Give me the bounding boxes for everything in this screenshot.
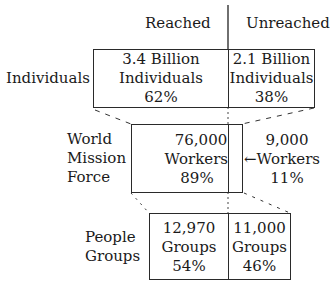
unit: Individuals bbox=[94, 69, 228, 88]
workers-unreached-cell: 9,000 ←Workers 11% bbox=[244, 131, 320, 188]
percent: 11% bbox=[244, 169, 320, 188]
label-line: Groups bbox=[85, 247, 140, 266]
workers-divider bbox=[228, 125, 229, 192]
value: 11,000 bbox=[229, 219, 290, 238]
unit: Groups bbox=[229, 238, 290, 257]
percent: 46% bbox=[229, 257, 290, 276]
header-unreached: Unreached bbox=[246, 14, 330, 32]
percent: 54% bbox=[150, 257, 228, 276]
percent: 62% bbox=[94, 88, 228, 107]
value: 3.4 Billion bbox=[94, 50, 228, 69]
individuals-reached-cell: 3.4 Billion Individuals 62% bbox=[94, 50, 228, 107]
label-line: Force bbox=[67, 168, 126, 187]
unit: Individuals bbox=[229, 69, 314, 88]
value: 2.1 Billion bbox=[229, 50, 314, 69]
workers-reached-cell: 76,000 Workers 89% bbox=[160, 131, 228, 188]
value: 9,000 bbox=[244, 131, 320, 150]
groups-reached-cell: 12,970 Groups 54% bbox=[150, 219, 228, 276]
value: 76,000 bbox=[160, 131, 228, 150]
value: 12,970 bbox=[150, 219, 228, 238]
percent: 38% bbox=[229, 88, 314, 107]
individuals-unreached-cell: 2.1 Billion Individuals 38% bbox=[229, 50, 314, 107]
groups-unreached-cell: 11,000 Groups 46% bbox=[229, 219, 290, 276]
row-label-individuals: Individuals bbox=[6, 69, 90, 88]
label-line: Mission bbox=[67, 149, 126, 168]
percent: 89% bbox=[160, 169, 228, 188]
row-label-people-groups: People Groups bbox=[85, 228, 140, 266]
row-label-world-mission-force: World Mission Force bbox=[67, 130, 126, 187]
unit: ←Workers bbox=[244, 150, 320, 169]
header-reached: Reached bbox=[145, 14, 211, 32]
label-line: World bbox=[67, 130, 126, 149]
unit: Workers bbox=[160, 150, 228, 169]
unit: Groups bbox=[150, 238, 228, 257]
label-line: People bbox=[85, 228, 140, 247]
